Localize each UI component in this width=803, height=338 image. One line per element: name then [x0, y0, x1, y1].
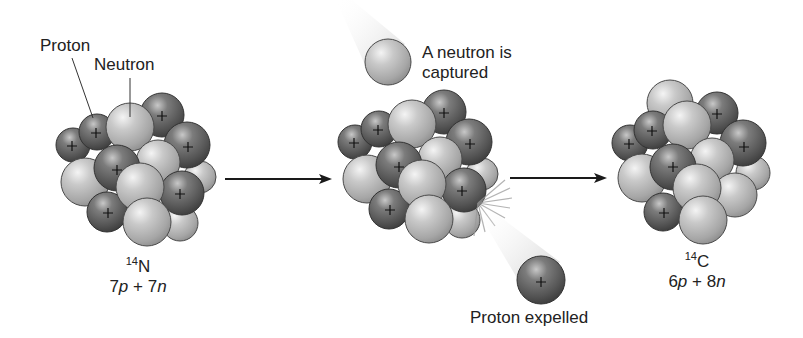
expelled-proton: [478, 206, 565, 304]
element-symbol: N: [138, 257, 150, 276]
proton-symbol: p: [119, 277, 128, 296]
mass-number: 14: [126, 255, 138, 267]
proton-symbol: p: [678, 272, 687, 291]
proton-label: Proton: [40, 37, 90, 54]
neutron: [679, 196, 727, 244]
incoming-neutron: [336, 0, 411, 85]
expelled-label: Proton expelled: [470, 309, 588, 326]
reaction-arrow-2: [510, 173, 607, 183]
composition-n14: 7p + 7n: [109, 278, 166, 295]
neutron-symbol: n: [157, 277, 166, 296]
nucleus-carbon-14: [612, 80, 770, 244]
nucleus-nitrogen-14: [56, 93, 216, 246]
capture-label-line2: captured: [422, 64, 488, 81]
plus-sign: +: [687, 272, 706, 291]
reaction-arrow-1: [225, 174, 332, 184]
proton-leader-line: [72, 58, 93, 118]
composition-c14: 6p + 8n: [668, 273, 725, 290]
element-symbol: C: [697, 252, 709, 271]
neutron-count: 7: [148, 277, 157, 296]
neutron-count: 8: [707, 272, 716, 291]
neutron: [123, 198, 171, 246]
nucleus-intermediate: [338, 90, 498, 243]
neutron: [405, 195, 453, 243]
neutron-label: Neutron: [94, 56, 154, 73]
neutron-symbol: n: [716, 272, 725, 291]
capture-label-line1: A neutron is: [422, 44, 512, 61]
plus-sign: +: [128, 277, 147, 296]
mass-number: 14: [685, 250, 697, 262]
isotope-label-n14: 14N: [126, 256, 151, 275]
isotope-label-c14: 14C: [685, 251, 710, 270]
